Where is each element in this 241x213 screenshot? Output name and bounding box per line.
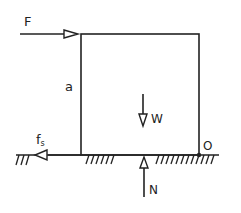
normal-force-label: N (149, 183, 158, 197)
pivot-point (197, 153, 201, 157)
pivot-label: O (203, 139, 212, 153)
applied-force-label: F (24, 14, 31, 29)
applied-force-arrow (20, 30, 78, 38)
ground-hatch-left (16, 155, 29, 165)
weight-label: W (151, 112, 163, 126)
free-body-diagram: F a fs W N O (0, 0, 241, 213)
normal-force-arrow (140, 157, 148, 197)
block (81, 34, 199, 155)
friction-arrow (35, 150, 81, 160)
weight-arrow (139, 94, 147, 126)
height-label: a (65, 79, 73, 94)
ground-hatch-right (86, 155, 214, 164)
friction-label: fs (36, 132, 45, 148)
friction-label-subscript: s (41, 139, 45, 148)
